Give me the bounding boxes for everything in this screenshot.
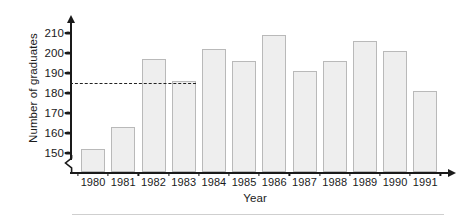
y-tick-mark — [65, 72, 72, 75]
x-tick-mark — [138, 172, 139, 176]
bar-1989 — [353, 41, 377, 172]
x-tick-label-1987: 1987 — [292, 176, 317, 188]
x-tick-label-1983: 1983 — [171, 176, 196, 188]
x-tick-mark — [379, 172, 380, 176]
y-tick-mark — [65, 112, 72, 115]
x-tick-mark — [319, 172, 320, 176]
x-tick-mark — [228, 172, 229, 176]
x-tick-label-1982: 1982 — [141, 176, 166, 188]
y-tick-mark — [65, 132, 72, 135]
y-tick-label: 190 — [30, 67, 64, 79]
x-tick-label-1991: 1991 — [413, 176, 438, 188]
y-tick-label: 210 — [30, 27, 64, 39]
x-tick-mark — [440, 172, 441, 176]
plot-area: Number of graduates 15016017018019020021… — [0, 0, 469, 222]
x-axis-title: Year — [60, 192, 450, 204]
bar-1988 — [323, 61, 347, 172]
y-tick-label: 150 — [30, 147, 64, 159]
x-tick-mark — [410, 172, 411, 176]
y-tick-label: 180 — [30, 87, 64, 99]
y-axis-arrow-icon — [67, 15, 75, 23]
x-axis-arrow-icon — [448, 169, 456, 177]
x-tick-mark — [108, 172, 109, 176]
bar-1985 — [232, 61, 256, 172]
x-tick-label-1985: 1985 — [232, 176, 257, 188]
y-tick-label: 160 — [30, 127, 64, 139]
x-tick-mark — [77, 172, 78, 176]
y-tick-mark — [65, 92, 72, 95]
y-tick-mark — [65, 52, 72, 55]
y-tick-label: 170 — [30, 107, 64, 119]
x-tick-mark — [259, 172, 260, 176]
bar-1984 — [202, 49, 226, 172]
axis-break-icon — [62, 155, 80, 173]
bar-chart: Number of graduates 15016017018019020021… — [0, 0, 469, 222]
x-tick-mark — [289, 172, 290, 176]
bar-1991 — [413, 91, 437, 172]
y-tick-mark — [65, 152, 72, 155]
x-tick-label-1986: 1986 — [262, 176, 287, 188]
x-tick-label-1980: 1980 — [81, 176, 106, 188]
bar-1990 — [383, 51, 407, 172]
reference-line — [70, 83, 196, 84]
footer-divider — [72, 214, 444, 215]
x-tick-mark — [168, 172, 169, 176]
x-tick-label-1989: 1989 — [352, 176, 377, 188]
bar-1982 — [142, 59, 166, 172]
x-tick-label-1981: 1981 — [111, 176, 136, 188]
bar-1980 — [81, 149, 105, 172]
x-tick-label-1984: 1984 — [201, 176, 226, 188]
bar-1981 — [111, 127, 135, 172]
bar-1986 — [262, 35, 286, 172]
y-tick-label: 200 — [30, 47, 64, 59]
bar-1987 — [293, 71, 317, 172]
x-tick-mark — [198, 172, 199, 176]
x-tick-mark — [349, 172, 350, 176]
x-tick-label-1990: 1990 — [383, 176, 408, 188]
bar-1983 — [172, 81, 196, 172]
y-tick-mark — [65, 32, 72, 35]
x-tick-label-1988: 1988 — [322, 176, 347, 188]
